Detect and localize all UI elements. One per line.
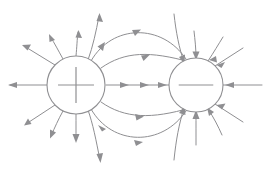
ray-negative-northeast bbox=[215, 48, 243, 68]
electric-dipole-diagram: Electric dipole field lines + − bbox=[0, 0, 272, 181]
ray-positive-south bbox=[73, 114, 80, 143]
positive-charge bbox=[47, 56, 105, 114]
ray-positive-northwest bbox=[22, 45, 55, 66]
ray-negative-east bbox=[223, 82, 262, 88]
field-arc-lower-outer bbox=[91, 109, 186, 146]
ray-positive-south-southwest bbox=[50, 111, 63, 139]
field-arc-lower-inner bbox=[101, 102, 190, 121]
field-line-canvas bbox=[0, 0, 272, 181]
ray-positive-north-northeast-long bbox=[88, 13, 103, 60]
ray-negative-north bbox=[193, 31, 200, 60]
ray-negative-north-northwest-long bbox=[174, 14, 185, 64]
ray-negative-south-southeast bbox=[207, 108, 222, 136]
ray-positive-north bbox=[76, 30, 83, 56]
ray-negative-southeast bbox=[215, 104, 243, 123]
ray-positive-west bbox=[8, 82, 47, 88]
field-arc-upper-outer bbox=[91, 30, 186, 62]
ray-negative-north-northeast bbox=[208, 37, 223, 63]
ray-positive-north-northwest bbox=[49, 34, 63, 59]
central-axis-field-line bbox=[106, 82, 169, 88]
ray-negative-south bbox=[193, 110, 200, 145]
ray-positive-south-southeast-long bbox=[88, 110, 103, 163]
ray-positive-southwest bbox=[24, 105, 55, 126]
negative-charge bbox=[169, 58, 223, 112]
